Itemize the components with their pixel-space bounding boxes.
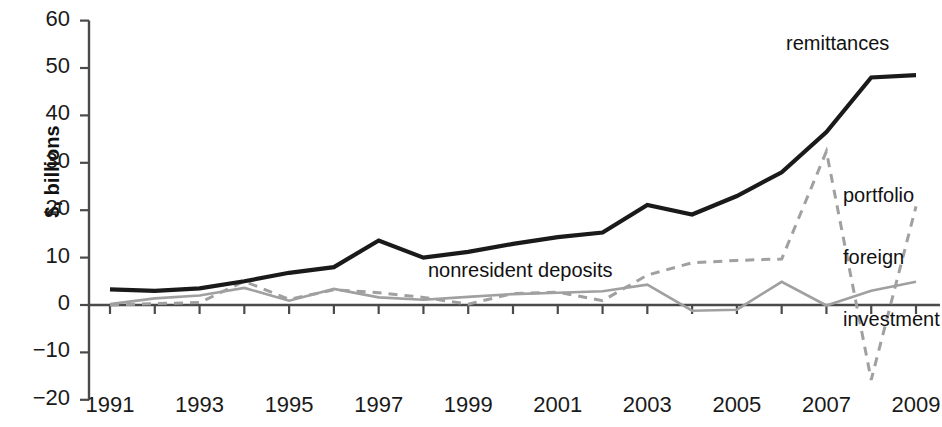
data-series — [110, 75, 916, 380]
plot-area — [0, 0, 942, 427]
portfolio-label-line-2: foreign — [843, 247, 940, 268]
series-label-remittances: remittances — [786, 33, 889, 54]
series-label-portfolio-foreign-investment: portfolio foreign investment — [843, 143, 940, 372]
portfolio-label-line-3: investment — [843, 309, 940, 330]
series-label-nonresident-deposits: nonresident deposits — [428, 260, 613, 281]
chart-container: $, billions −20−100102030405060 19911993… — [0, 0, 942, 427]
axes — [80, 21, 940, 400]
portfolio-label-line-1: portfolio — [843, 185, 940, 206]
